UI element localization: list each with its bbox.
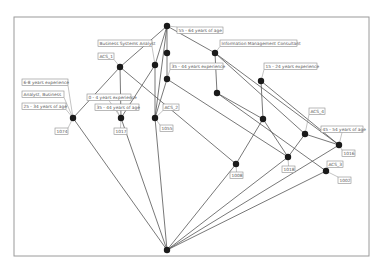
node-label: Information Management Consultant <box>220 40 301 47</box>
svg-text:6-8 years experience: 6-8 years experience <box>24 80 70 85</box>
node-label: 25 - 34 years of age <box>22 103 67 110</box>
lattice-node-n-r1[interactable] <box>260 116 266 122</box>
lattice-node-n-1002[interactable] <box>323 168 329 174</box>
node-label: ACS_1 <box>98 53 114 60</box>
svg-text:15 - 24 years experience: 15 - 24 years experience <box>266 64 320 69</box>
node-label: 1002 <box>338 177 351 184</box>
lattice-node-n-acs4[interactable] <box>302 131 308 137</box>
lattice-node-bottom[interactable] <box>164 247 170 253</box>
node-label: 45 - 54 years of age <box>321 126 366 133</box>
svg-text:1002: 1002 <box>340 178 351 183</box>
node-label: Business Systems Analyst <box>98 40 156 47</box>
lattice-node-n-exp15[interactable] <box>214 90 220 96</box>
diagram-frame <box>14 17 369 256</box>
node-label: 1055 <box>160 125 173 132</box>
lattice-node-n-1008[interactable] <box>233 161 239 167</box>
lattice-node-n-imc-exp[interactable] <box>258 78 264 84</box>
lattice-node-n-bsa[interactable] <box>152 62 158 68</box>
svg-text:1017: 1017 <box>116 129 127 134</box>
svg-text:1074: 1074 <box>57 129 68 134</box>
lattice-node-n-acs1[interactable] <box>117 64 123 70</box>
node-label: 35 - 44 years of age <box>95 104 140 111</box>
node-label: 1017 <box>114 128 127 135</box>
lattice-node-n-imc[interactable] <box>212 50 218 56</box>
node-label: ACS_4 <box>309 108 325 115</box>
node-label: ACS_2 <box>163 104 179 111</box>
concept-lattice: 55 - 64 years of ageBusiness Systems Ana… <box>0 0 383 267</box>
lattice-node-top[interactable] <box>164 23 170 29</box>
svg-text:1008: 1008 <box>232 173 243 178</box>
svg-text:0 - 4 years experience: 0 - 4 years experience <box>89 95 137 100</box>
node-label: 0 - 4 years experience <box>87 94 137 101</box>
svg-text:1055: 1055 <box>162 126 173 131</box>
diagram-canvas: 55 - 64 years of ageBusiness Systems Ana… <box>0 0 383 267</box>
svg-text:25 - 34 years of age: 25 - 34 years of age <box>24 104 68 109</box>
lattice-node-n-age55[interactable] <box>164 50 170 56</box>
lattice-node-n-1016[interactable] <box>336 142 342 148</box>
lattice-node-n-1018[interactable] <box>285 154 291 160</box>
svg-text:35 - 44 years experience: 35 - 44 years experience <box>172 64 226 69</box>
svg-text:Analyst, Business: Analyst, Business <box>24 92 62 97</box>
lattice-node-n-1017[interactable] <box>118 115 124 121</box>
svg-text:35 - 44 years of age: 35 - 44 years of age <box>97 105 141 110</box>
lattice-node-n-1055[interactable] <box>152 115 158 121</box>
svg-text:1016: 1016 <box>344 151 355 156</box>
node-label: 55 - 64 years of age <box>177 27 223 34</box>
node-label: 1018 <box>282 166 295 173</box>
node-label: 35 - 44 years experience <box>170 63 225 70</box>
svg-text:1018: 1018 <box>284 167 295 172</box>
node-label: ACS_3 <box>327 161 343 168</box>
svg-text:45 - 54 years of age: 45 - 54 years of age <box>323 127 367 132</box>
svg-text:Information Management Consult: Information Management Consultant <box>222 41 301 46</box>
lattice-node-n-1074[interactable] <box>70 115 76 121</box>
svg-text:55 - 64 years of age: 55 - 64 years of age <box>179 28 223 33</box>
node-label: 1074 <box>55 128 68 135</box>
node-label: 1008 <box>230 172 243 179</box>
lattice-node-n-exp35[interactable] <box>164 76 170 82</box>
node-label: 1016 <box>342 150 355 157</box>
node-label: 15 - 24 years experience <box>264 63 319 70</box>
svg-text:Business Systems Analyst: Business Systems Analyst <box>100 41 156 46</box>
node-label: 6-8 years experience <box>22 79 69 86</box>
node-label: Analyst, Business <box>22 91 64 98</box>
